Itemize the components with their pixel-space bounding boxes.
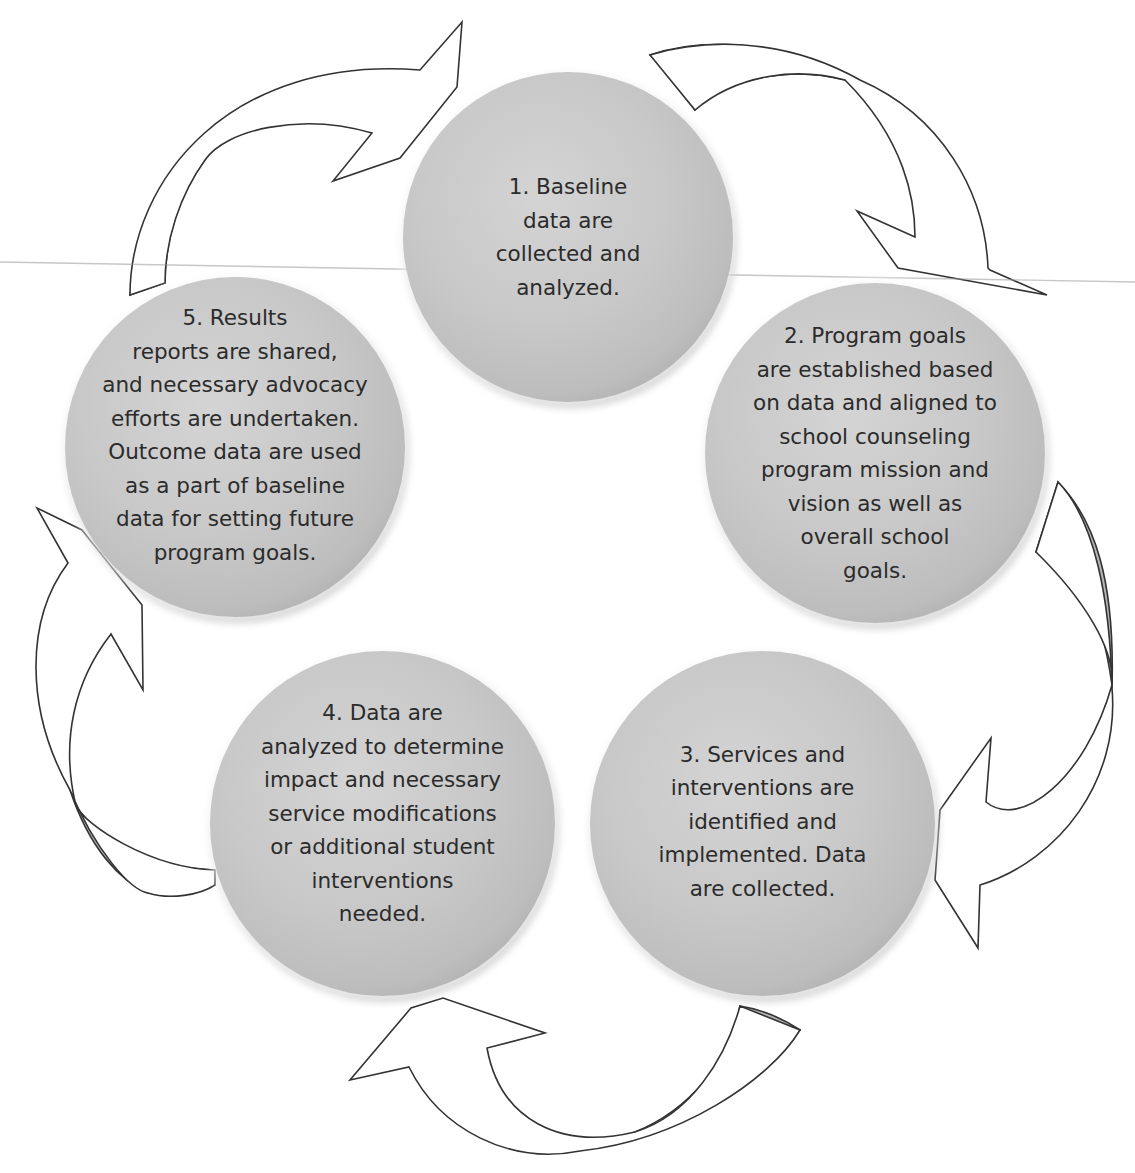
step-3-text: 3. Services and interventions are identi…	[659, 738, 867, 906]
step-2-circle: 2. Program goals are established based o…	[705, 283, 1045, 623]
step-1-circle: 1. Baseline data are collected and analy…	[403, 72, 733, 402]
step-5-text: 5. Results reports are shared, and neces…	[102, 301, 367, 569]
step-1-text: 1. Baseline data are collected and analy…	[496, 170, 641, 304]
step-4-text: 4. Data are analyzed to determine impact…	[261, 696, 504, 931]
curved-arrow-icon	[350, 998, 800, 1154]
step-5-circle: 5. Results reports are shared, and neces…	[65, 277, 405, 617]
step-4-circle: 4. Data are analyzed to determine impact…	[210, 651, 555, 996]
step-3-circle: 3. Services and interventions are identi…	[590, 651, 935, 996]
step-2-text: 2. Program goals are established based o…	[753, 319, 997, 587]
